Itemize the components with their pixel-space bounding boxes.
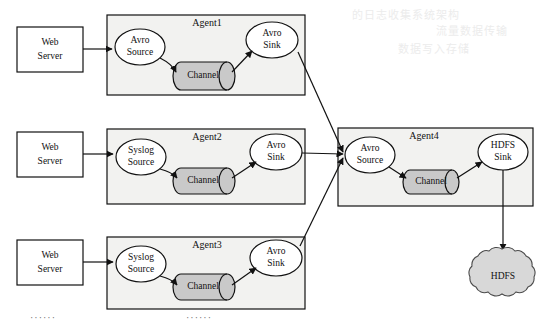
ellipsis-left: ······ [30, 312, 56, 323]
source-label-line2-agent3: Source [128, 264, 154, 274]
source-label-line1-agent2: Syslog [128, 145, 154, 155]
agent-title-agent2: Agent2 [192, 131, 221, 142]
agent-group-agent3: Agent3 Syslog Source Channel Avro Sink [107, 237, 305, 309]
web-server-label-line2-ws1: Server [38, 51, 64, 61]
channel-label-agent4: Channel [415, 176, 447, 186]
sink-label-line2-agent4: Sink [494, 152, 512, 162]
web-server-box-ws3 [17, 240, 83, 285]
hdfs-cloud-node: HDFS [469, 247, 535, 296]
agent-group-agent1: Agent1 Avro Source Channel Avro Sink [107, 15, 305, 95]
channel-label-agent3: Channel [187, 281, 219, 291]
source-label-line1-agent3: Syslog [128, 252, 154, 262]
channel-label-agent2: Channel [187, 175, 219, 185]
agent-group-agent4: Agent4 Avro Source Channel HDFS Sink [338, 128, 533, 206]
source-label-line1-agent1: Avro [131, 35, 150, 45]
sink-label-line2-agent1: Sink [263, 40, 281, 50]
web-server-label-line1-ws3: Web [41, 250, 58, 260]
web-server-ws1: Web Server [17, 27, 112, 72]
web-server-ws2: Web Server [17, 132, 113, 177]
sink-label-line2-agent3: Sink [267, 258, 285, 268]
sink-label-line1-agent3: Avro [267, 246, 286, 256]
source-label-line2-agent4: Source [357, 155, 383, 165]
ellipsis-middle: ······ [186, 312, 212, 323]
flume-topology-diagram: 的日志收集系统架构 流量数据传输 数据写入存储 Agent1 Avro Sour… [0, 0, 550, 331]
web-server-label-line1-ws2: Web [41, 142, 58, 152]
source-label-line2-agent1: Source [127, 47, 153, 57]
sink-label-line1-agent4: HDFS [491, 140, 515, 150]
web-server-box-ws2 [17, 132, 83, 177]
web-server-ws3: Web Server [17, 240, 113, 285]
web-server-label-line2-ws2: Server [38, 156, 64, 166]
sink-label-line2-agent2: Sink [267, 152, 285, 162]
source-label-line1-agent4: Avro [361, 143, 380, 153]
agent-title-agent3: Agent3 [192, 239, 221, 250]
web-server-label-line1-ws1: Web [41, 37, 58, 47]
web-server-box-ws1 [17, 27, 83, 72]
hdfs-label: HDFS [491, 271, 515, 281]
agent-title-agent4: Agent4 [409, 130, 438, 141]
diagram-canvas: Agent1 Avro Source Channel Avro Sink Web… [0, 0, 550, 331]
web-server-label-line2-ws3: Server [38, 264, 64, 274]
agent-title-agent1: Agent1 [192, 17, 221, 28]
agent-group-agent2: Agent2 Syslog Source Channel Avro Sink [107, 129, 305, 204]
sink-label-line1-agent2: Avro [267, 140, 286, 150]
source-label-line2-agent2: Source [128, 157, 154, 167]
arrow-agent3-sink-to-agent4-source [300, 158, 343, 246]
channel-label-agent1: Channel [187, 70, 219, 80]
sink-label-line1-agent1: Avro [263, 28, 282, 38]
arrow-agent2-sink-to-agent4-source [302, 153, 343, 154]
